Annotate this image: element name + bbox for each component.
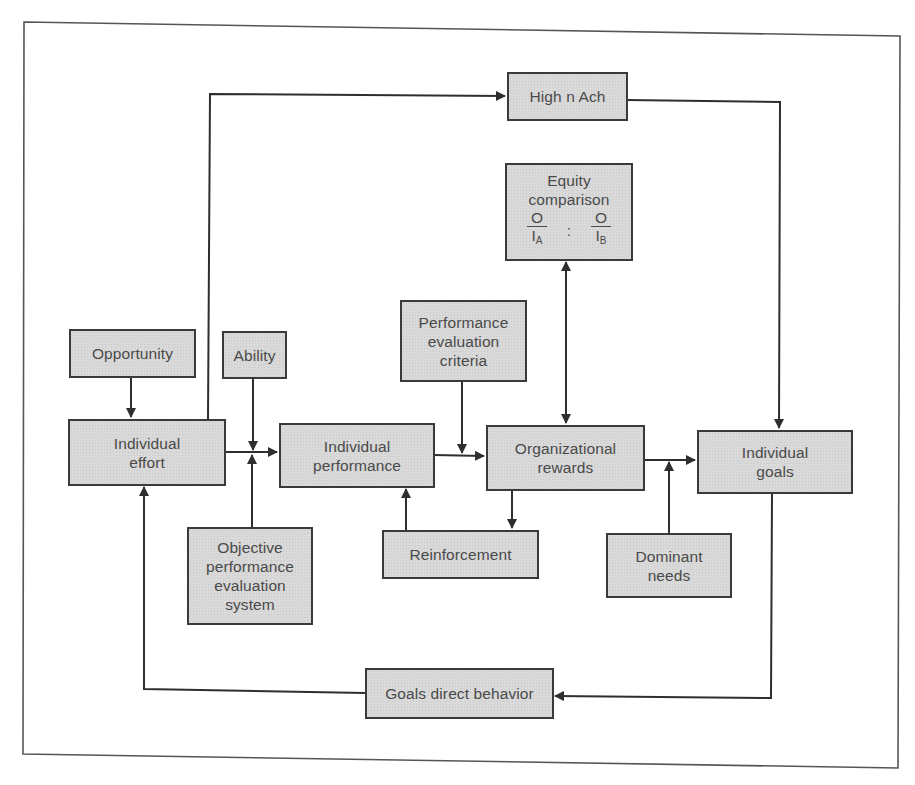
node-label-line: system <box>225 595 275 614</box>
node-equity-comparison: Equity comparison O IA : O IB <box>505 163 633 261</box>
node-goals-direct-behavior: Goals direct behavior <box>365 668 554 719</box>
ratio-separator: : <box>567 221 571 240</box>
node-label: Reinforcement <box>409 545 511 564</box>
node-label-line: evaluation <box>428 332 500 351</box>
ratio-a-numerator: O <box>527 210 547 227</box>
diagram-canvas: High n Ach Equity comparison O IA : O IB… <box>0 0 915 785</box>
node-label: High n Ach <box>530 87 606 106</box>
equity-ratio: O IA : O IB <box>526 210 612 250</box>
ratio-a-denominator: IA <box>531 227 542 250</box>
node-label-line: evaluation <box>214 576 286 595</box>
node-performance-evaluation-criteria: Performance evaluation criteria <box>400 300 527 382</box>
node-reinforcement: Reinforcement <box>382 530 539 579</box>
node-label-line: performance <box>206 557 294 576</box>
node-label-line: rewards <box>538 458 594 477</box>
node-label-line: Equity <box>547 171 591 190</box>
node-label: Goals direct behavior <box>385 684 534 703</box>
node-individual-performance: Individual performance <box>279 423 435 488</box>
arrow-high-n-ach-to-goals <box>627 100 780 428</box>
node-label: Opportunity <box>92 344 173 363</box>
node-label: Ability <box>233 346 275 365</box>
node-high-n-ach: High n Ach <box>507 72 628 121</box>
node-label-line: Individual <box>114 434 181 453</box>
node-objective-performance-evaluation-system: Objective performance evaluation system <box>187 527 313 625</box>
node-label-line: Individual <box>742 443 809 462</box>
node-label-line: comparison <box>528 190 609 209</box>
ratio-b-denominator: IB <box>595 227 606 250</box>
ratio-b: O IB <box>590 210 612 250</box>
node-ability: Ability <box>222 331 287 379</box>
ratio-b-numerator: O <box>591 210 611 227</box>
node-label-line: effort <box>129 453 165 472</box>
node-dominant-needs: Dominant needs <box>606 533 732 598</box>
arrow-performance-to-rewards <box>434 455 484 456</box>
node-label-line: needs <box>648 566 691 585</box>
node-label-line: Objective <box>217 538 283 557</box>
node-label-line: criteria <box>440 351 487 370</box>
node-label-line: goals <box>756 462 794 481</box>
node-label-line: Performance <box>419 313 509 332</box>
node-opportunity: Opportunity <box>69 329 196 378</box>
node-individual-effort: Individual effort <box>68 419 226 486</box>
node-individual-goals: Individual goals <box>697 430 853 494</box>
node-label-line: Dominant <box>635 547 702 566</box>
node-organizational-rewards: Organizational rewards <box>486 425 645 491</box>
node-label-line: Organizational <box>515 439 616 458</box>
ratio-a: O IA <box>526 210 548 250</box>
node-label-line: performance <box>313 456 401 475</box>
node-label-line: Individual <box>324 437 391 456</box>
